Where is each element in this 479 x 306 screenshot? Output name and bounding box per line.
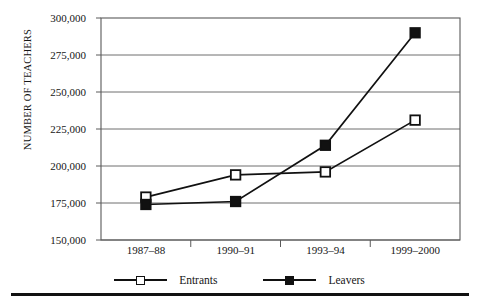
series-line-leavers bbox=[146, 33, 415, 205]
x-tick-label: 1990–91 bbox=[216, 244, 255, 256]
legend-line-leavers bbox=[263, 279, 285, 281]
x-tick-label: 1993–94 bbox=[306, 244, 345, 256]
data-point-leavers-0 bbox=[141, 200, 151, 210]
plot-area bbox=[0, 0, 479, 306]
data-point-entrants-1 bbox=[231, 170, 241, 180]
data-point-leavers-1 bbox=[231, 197, 241, 207]
series-line-entrants bbox=[146, 120, 415, 197]
legend-item-entrants: Entrants bbox=[114, 274, 217, 286]
chart-legend: Entrants Leavers bbox=[0, 270, 479, 290]
legend-line-leavers-right bbox=[294, 279, 316, 281]
open-square-icon bbox=[136, 276, 145, 285]
x-tick-label: 1999–2000 bbox=[390, 244, 440, 256]
series-lines bbox=[146, 33, 415, 205]
legend-label-leavers: Leavers bbox=[328, 274, 364, 286]
gridlines bbox=[101, 55, 460, 240]
data-point-entrants-2 bbox=[321, 167, 331, 177]
legend-item-leavers: Leavers bbox=[263, 274, 364, 286]
chart-figure: NUMBER OF TEACHERS 300,000275,000250,000… bbox=[0, 0, 479, 306]
legend-line-entrants bbox=[114, 279, 136, 281]
legend-line-entrants-right bbox=[145, 279, 167, 281]
filled-square-icon bbox=[285, 276, 294, 285]
x-tick-label: 1987–88 bbox=[127, 244, 166, 256]
legend-label-entrants: Entrants bbox=[179, 274, 217, 286]
y-axis-tick-marks bbox=[96, 18, 101, 240]
data-point-leavers-2 bbox=[321, 141, 331, 151]
data-point-entrants-3 bbox=[410, 115, 420, 125]
bottom-rule bbox=[11, 293, 469, 296]
data-point-leavers-3 bbox=[410, 28, 420, 38]
